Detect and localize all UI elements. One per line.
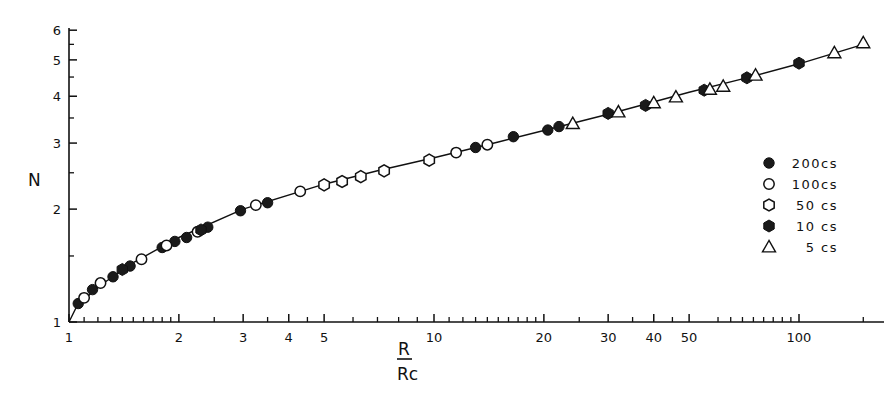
legend: 200cs100cs50 cs10 cs5 cs: [763, 156, 839, 255]
axes: 123451020304050100123456: [53, 23, 884, 345]
data-point-open-hexagon: [337, 176, 347, 188]
data-point-open-circle: [136, 254, 146, 264]
legend-label: 50 cs: [796, 198, 838, 213]
data-points: [73, 36, 870, 308]
data-point-filled-hexagon: [196, 224, 206, 236]
y-tick-label: 1: [53, 315, 61, 330]
data-point-filled-circle: [554, 121, 564, 131]
data-point-filled-circle: [470, 142, 480, 152]
data-point-filled-hexagon: [794, 57, 804, 69]
data-point-open-circle: [482, 140, 492, 150]
data-point-filled-circle: [181, 232, 191, 242]
x-tick-label: 30: [600, 330, 617, 345]
data-point-open-triangle: [612, 106, 625, 117]
master-curve: [69, 44, 863, 322]
legend-label: 100cs: [792, 177, 838, 192]
series-10cs: [117, 57, 804, 275]
legend-item: 5 cs: [763, 240, 839, 255]
x-axis-title-denominator: Rc: [397, 364, 418, 384]
legend-marker-filled-circle: [764, 158, 774, 168]
data-point-open-circle: [251, 200, 261, 210]
data-point-open-hexagon: [356, 171, 366, 183]
data-point-open-circle: [161, 240, 171, 250]
data-point-open-circle: [451, 147, 461, 157]
x-tick-label: 2: [175, 330, 183, 345]
x-axis-title: R Rc: [397, 339, 418, 384]
legend-label: 10 cs: [796, 219, 838, 234]
data-point-open-circle: [295, 186, 305, 196]
legend-marker-open-triangle: [763, 241, 776, 252]
y-tick-label: 2: [53, 202, 61, 217]
x-tick-label: 20: [536, 330, 553, 345]
y-axis-title: N: [28, 170, 41, 190]
legend-item: 50 cs: [764, 198, 838, 213]
data-point-open-triangle: [857, 36, 870, 47]
data-point-open-triangle: [669, 91, 682, 102]
legend-label: 5 cs: [806, 240, 838, 255]
x-tick-label: 10: [426, 330, 443, 345]
legend-marker-open-circle: [764, 179, 774, 189]
data-point-filled-circle: [508, 131, 518, 141]
data-point-open-triangle: [566, 117, 579, 128]
data-point-open-circle: [79, 293, 89, 303]
x-tick-label: 100: [787, 330, 812, 345]
x-tick-label: 1: [65, 330, 73, 345]
y-tick-label: 5: [53, 53, 61, 68]
legend-item: 100cs: [764, 177, 838, 192]
data-point-open-hexagon: [319, 179, 329, 191]
legend-label: 200cs: [792, 156, 838, 171]
x-tick-label: 3: [239, 330, 247, 345]
data-point-filled-circle: [262, 198, 272, 208]
y-tick-label: 4: [53, 89, 61, 104]
y-tick-label: 3: [53, 136, 61, 151]
series-50cs: [319, 154, 435, 191]
y-tick-label: 6: [53, 23, 61, 38]
data-point-filled-hexagon: [117, 264, 127, 276]
x-tick-label: 50: [681, 330, 698, 345]
legend-marker-filled-hexagon: [764, 220, 774, 232]
data-point-open-hexagon: [424, 154, 434, 166]
data-point-open-hexagon: [379, 165, 389, 177]
data-point-open-circle: [95, 278, 105, 288]
legend-marker-open-hexagon: [764, 199, 774, 211]
legend-item: 10 cs: [764, 219, 838, 234]
x-tick-label: 40: [645, 330, 662, 345]
data-point-filled-circle: [543, 125, 553, 135]
fit-curve: [69, 44, 863, 322]
x-axis-title-numerator: R: [398, 339, 410, 359]
data-point-filled-circle: [108, 272, 118, 282]
legend-item: 200cs: [764, 156, 838, 171]
x-tick-label: 5: [320, 330, 328, 345]
x-tick-label: 4: [285, 330, 293, 345]
data-point-filled-circle: [235, 206, 245, 216]
log-log-scatter-chart: 123451020304050100123456 200cs100cs50 cs…: [0, 0, 886, 412]
